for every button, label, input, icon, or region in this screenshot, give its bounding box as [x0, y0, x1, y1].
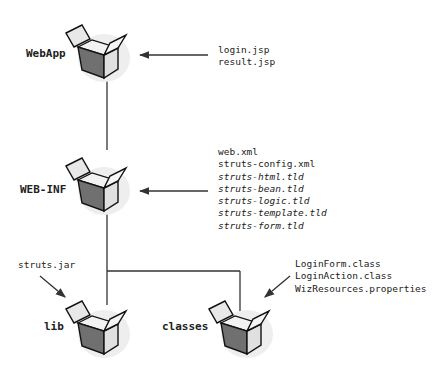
open-box-icon — [62, 298, 134, 360]
file-item: result.jsp — [218, 56, 275, 68]
open-box-icon — [62, 22, 134, 84]
node-label-webinf: WEB-INF — [20, 183, 66, 196]
file-item: web.xml — [218, 146, 327, 158]
file-item: struts-template.tld — [218, 207, 327, 219]
open-box-icon — [62, 155, 134, 217]
node-label-webapp: WebApp — [26, 47, 66, 60]
file-list-lib: struts.jar — [18, 259, 75, 271]
file-item: LoginForm.class — [295, 258, 427, 270]
file-item: LoginAction.class — [295, 270, 427, 282]
file-list-webapp: login.jsp result.jsp — [218, 44, 275, 69]
file-item: WizResources.properties — [295, 283, 427, 295]
file-list-classes: LoginForm.class LoginAction.class WizRes… — [295, 258, 427, 295]
file-item: struts-logic.tld — [218, 195, 327, 207]
node-label-lib: lib — [44, 320, 64, 333]
file-item: struts.jar — [18, 259, 75, 271]
file-item: struts-form.tld — [218, 220, 327, 232]
open-box-icon — [205, 298, 277, 360]
file-item: struts-bean.tld — [218, 183, 327, 195]
struts-directory-diagram: WebApp WEB-INF lib classes login.jsp res… — [0, 0, 435, 373]
file-item: struts-html.tld — [218, 171, 327, 183]
file-item: login.jsp — [218, 44, 275, 56]
file-list-webinf: web.xml struts-config.xml struts-html.tl… — [218, 146, 327, 232]
file-item: struts-config.xml — [218, 158, 327, 170]
node-label-classes: classes — [162, 320, 208, 333]
